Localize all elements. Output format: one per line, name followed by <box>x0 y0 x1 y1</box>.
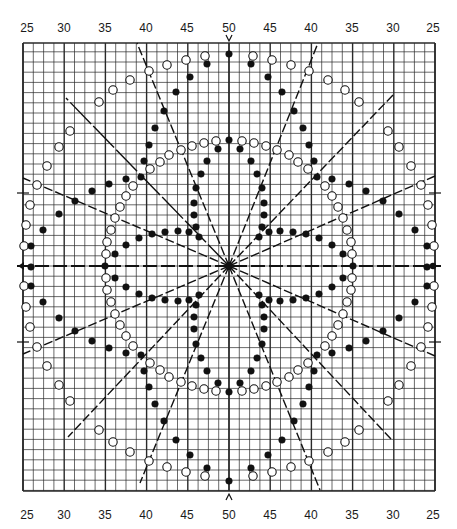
inner-filled-point <box>136 291 143 298</box>
inner-filled-point <box>191 212 198 219</box>
outer-open-point <box>355 426 363 434</box>
outer-open-point <box>424 323 432 331</box>
outer-filled-point <box>300 401 307 408</box>
inner-filled-point <box>175 298 182 305</box>
bottom-center-marker-icon <box>226 494 232 500</box>
axis-filled-point <box>226 389 233 396</box>
outer-filled-point <box>279 437 286 444</box>
inner-open-point <box>285 373 293 381</box>
inner-filled-point <box>340 275 347 282</box>
outer-open-point <box>182 468 190 476</box>
radial-dashed-line <box>229 266 391 439</box>
inner-filled-point <box>256 292 263 299</box>
inner-filled-point <box>303 295 310 302</box>
axis-filled-point <box>28 264 35 271</box>
inner-open-point <box>334 203 342 211</box>
outer-filled-point <box>412 227 419 234</box>
right-dot-marker-icon <box>430 263 436 269</box>
outer-filled-point <box>380 328 387 335</box>
inner-filled-point <box>215 146 222 153</box>
inner-open-point <box>102 274 110 282</box>
outer-filled-point <box>396 315 403 322</box>
inner-open-point <box>328 192 336 200</box>
inner-open-point <box>156 366 164 374</box>
inner-filled-point <box>259 185 266 192</box>
outer-open-point <box>26 323 34 331</box>
inner-filled-point <box>191 314 198 321</box>
inner-filled-point <box>248 158 255 165</box>
outer-filled-point <box>204 465 211 472</box>
outer-filled-point <box>89 188 96 195</box>
outer-filled-point <box>279 89 286 96</box>
left-arrow-marker-icon <box>18 262 24 270</box>
outer-filled-point <box>424 283 431 290</box>
outer-filled-point <box>146 384 153 391</box>
outer-open-point <box>268 56 276 64</box>
outer-open-point <box>145 67 153 75</box>
outer-filled-point <box>346 345 353 352</box>
outer-open-point <box>249 52 257 60</box>
inner-open-point <box>102 250 110 258</box>
inner-filled-point <box>237 380 244 387</box>
outer-open-point <box>428 221 436 229</box>
outer-filled-point <box>396 211 403 218</box>
inner-open-point <box>339 310 347 318</box>
outer-filled-point <box>248 465 255 472</box>
outer-filled-point <box>40 299 47 306</box>
outer-open-point <box>430 282 438 290</box>
inner-open-point <box>146 359 154 367</box>
inner-filled-point <box>162 297 169 304</box>
inner-filled-point <box>123 284 130 291</box>
top-center-marker-icon <box>226 35 232 41</box>
inner-filled-point <box>303 231 310 238</box>
axis-filled-point <box>424 264 431 271</box>
outer-filled-point <box>152 125 159 132</box>
outer-filled-point <box>138 352 145 359</box>
outer-open-point <box>109 86 117 94</box>
outer-open-point <box>33 181 41 189</box>
outer-filled-point <box>314 174 321 181</box>
outer-filled-point <box>265 74 272 81</box>
inner-filled-point <box>136 235 143 242</box>
inner-open-point <box>343 298 351 306</box>
inner-open-point <box>250 139 258 147</box>
inner-open-point <box>334 321 342 329</box>
inner-open-point <box>238 387 246 395</box>
inner-open-point <box>111 214 119 222</box>
outer-filled-point <box>204 61 211 68</box>
outer-open-point <box>20 242 28 250</box>
inner-filled-point <box>186 229 193 236</box>
inner-open-point <box>188 142 196 150</box>
outer-open-point <box>26 201 34 209</box>
inner-open-point <box>343 226 351 234</box>
outer-filled-point <box>40 227 47 234</box>
inner-filled-point <box>259 302 266 309</box>
outer-open-point <box>43 162 51 170</box>
inner-open-point <box>294 158 302 166</box>
inner-open-point <box>107 298 115 306</box>
inner-open-point <box>285 151 293 159</box>
outer-filled-point <box>380 198 387 205</box>
outer-open-point <box>163 463 171 471</box>
inner-filled-point <box>162 229 169 236</box>
outer-filled-point <box>306 384 313 391</box>
inner-open-point <box>129 342 137 350</box>
inner-filled-point <box>112 251 119 258</box>
outer-filled-point <box>291 418 298 425</box>
outer-open-point <box>20 282 28 290</box>
inner-filled-point <box>254 355 261 362</box>
inner-filled-point <box>261 326 268 333</box>
outer-open-point <box>407 362 415 370</box>
outer-filled-point <box>106 181 113 188</box>
inner-filled-point <box>193 224 200 231</box>
inner-filled-point <box>256 234 263 241</box>
inner-open-point <box>122 192 130 200</box>
outer-filled-point <box>363 338 370 345</box>
inner-filled-point <box>261 314 268 321</box>
inner-filled-point <box>149 295 156 302</box>
inner-open-point <box>165 373 173 381</box>
inner-open-point <box>107 226 115 234</box>
inner-open-point <box>156 158 164 166</box>
inner-filled-point <box>237 146 244 153</box>
inner-open-point <box>200 385 208 393</box>
